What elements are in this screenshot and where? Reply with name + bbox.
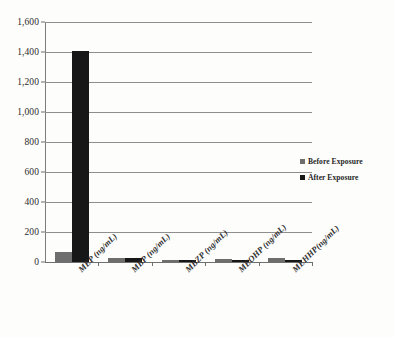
bar-group (45, 22, 98, 262)
bar (55, 252, 72, 262)
bar-groups (45, 22, 312, 262)
x-axis-tick-mark (312, 262, 313, 266)
chart-legend: Before ExposureAfter Exposure (300, 157, 363, 182)
bar (72, 51, 89, 263)
bar-group (152, 22, 205, 262)
bar (268, 258, 285, 262)
legend-item: Before Exposure (300, 157, 363, 166)
bar (215, 259, 232, 262)
bar (108, 258, 125, 262)
chart-figure: 02004006008001,0001,2001,4001,600 MEP (n… (0, 0, 394, 337)
legend-swatch-icon (300, 159, 305, 164)
legend-label: Before Exposure (308, 157, 363, 166)
bar-group (205, 22, 258, 262)
plot-area: 02004006008001,0001,2001,4001,600 (45, 22, 312, 262)
legend-swatch-icon (300, 175, 305, 180)
legend-item: After Exposure (300, 173, 363, 182)
legend-label: After Exposure (308, 173, 358, 182)
bar (162, 260, 179, 262)
x-axis-category-labels: MEP (ng/mL)MBP (ng/mL)MBZP (ng/mL)MEOHP … (45, 263, 312, 337)
bar-group (98, 22, 151, 262)
